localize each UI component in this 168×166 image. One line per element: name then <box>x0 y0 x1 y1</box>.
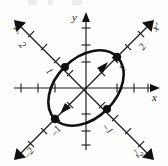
x-axis <box>14 84 160 93</box>
y-axis-arrowhead <box>82 12 90 22</box>
y-axis-label: y <box>72 12 77 23</box>
point-y-prime-positive <box>61 63 69 71</box>
y-axis <box>82 12 91 150</box>
point-x-prime-positive <box>113 53 121 61</box>
x-axis-label: x <box>152 92 157 103</box>
point-x-prime-negative <box>51 115 59 123</box>
rotated-axes-ellipse-figure: y x x′ y′ 2 1 –1 –2 2 1 –1 –2 <box>0 0 168 166</box>
figure-canvas <box>0 0 168 166</box>
point-y-prime-negative <box>103 105 111 113</box>
